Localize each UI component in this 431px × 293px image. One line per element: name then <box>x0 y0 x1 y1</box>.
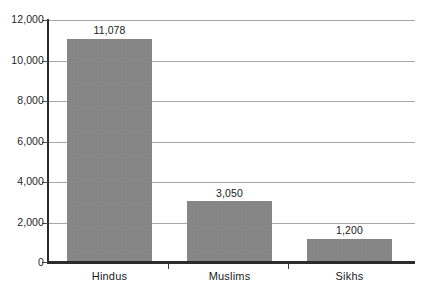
bar-muslims <box>187 201 272 263</box>
bar-value-hindus: 11,078 <box>67 25 152 36</box>
y-tick-label-12000-wrap: 12,000 <box>0 14 44 26</box>
y-tick-label-4000-wrap: 4,000 <box>0 176 44 188</box>
gridline-12000 <box>48 20 415 21</box>
bar-value-sikhs: 1,200 <box>307 225 392 236</box>
x-label-hindus: Hindus <box>67 270 152 282</box>
y-tick-label-0: 0 <box>2 257 44 268</box>
x-axis-line <box>47 261 415 264</box>
y-tick-label-8000-wrap: 8,000 <box>0 95 44 107</box>
bar-chart: 12,000 10,000 8,000 6,000 4,000 2,000 0 … <box>0 0 431 293</box>
y-tick-label-8000: 8,000 <box>2 95 44 106</box>
bar-hindus <box>67 39 152 263</box>
y-tick-label-6000: 6,000 <box>2 136 44 147</box>
bar-sikhs <box>307 239 392 263</box>
y-tick-label-2000: 2,000 <box>2 217 44 228</box>
y-tick-label-10000-wrap: 10,000 <box>0 55 44 67</box>
y-tick-label-10000: 10,000 <box>2 55 44 66</box>
y-tick-label-4000: 4,000 <box>2 176 44 187</box>
x-tick-1 <box>168 264 169 269</box>
x-label-muslims: Muslims <box>187 270 272 282</box>
y-tick-label-0-wrap: 0 <box>0 257 44 269</box>
bar-value-muslims: 3,050 <box>187 188 272 199</box>
y-tick-label-12000: 12,000 <box>2 14 44 25</box>
y-tick-label-2000-wrap: 2,000 <box>0 217 44 229</box>
x-label-sikhs: Sikhs <box>307 270 392 282</box>
y-tick-label-6000-wrap: 6,000 <box>0 136 44 148</box>
x-tick-2 <box>288 264 289 269</box>
